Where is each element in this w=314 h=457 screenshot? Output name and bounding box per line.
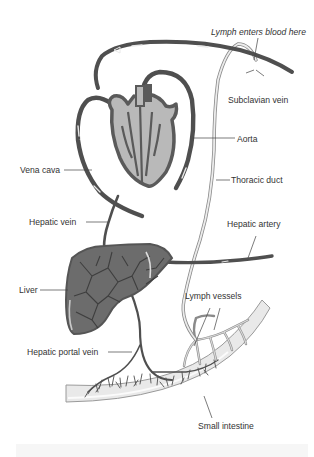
subclavian-vein (96, 42, 292, 88)
label-hepatic-vein: Hepatic vein (29, 217, 76, 227)
hepatic-artery (164, 256, 272, 263)
label-liver: Liver (19, 285, 38, 295)
label-aorta: Aorta (237, 134, 258, 144)
label-subclavian-vein: Subclavian vein (228, 95, 288, 105)
heart (109, 84, 176, 186)
label-thoracic-duct: Thoracic duct (231, 175, 283, 185)
label-hepatic-portal-vein: Hepatic portal vein (27, 347, 98, 357)
label-vena-cava: Vena cava (20, 165, 60, 175)
label-lymph-vessels: Lymph vessels (185, 291, 242, 301)
label-lymph-enters: Lymph enters blood here (211, 27, 306, 37)
label-small-intestine: Small intestine (198, 421, 254, 431)
liver (66, 244, 172, 334)
label-hepatic-artery: Hepatic artery (227, 219, 281, 229)
bottom-band (16, 444, 308, 457)
